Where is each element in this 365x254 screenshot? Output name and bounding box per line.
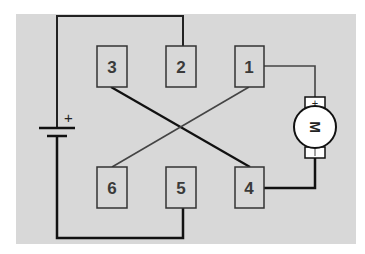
terminal-3: 3 [97, 46, 127, 87]
terminal-1-label: 1 [244, 58, 253, 77]
terminal-4: 4 [235, 167, 264, 208]
terminal-3-label: 3 [107, 58, 116, 77]
terminal-5: 5 [166, 167, 196, 208]
terminal-6: 6 [97, 167, 127, 208]
terminal-4-label: 4 [244, 179, 254, 198]
terminal-1: 1 [235, 46, 264, 87]
terminal-5-label: 5 [176, 179, 185, 198]
circuit-diagram: + 3 2 1 6 5 4 + M [0, 0, 365, 254]
terminal-6-label: 6 [107, 179, 116, 198]
terminal-2: 2 [166, 46, 196, 87]
motor-label: M [307, 121, 323, 133]
terminal-2-label: 2 [176, 58, 185, 77]
battery-plus-label: + [64, 109, 73, 126]
